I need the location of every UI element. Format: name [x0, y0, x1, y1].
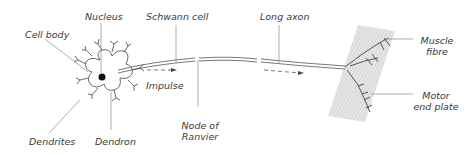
diagram-drawing [0, 0, 469, 155]
impulse-arrow [147, 70, 300, 73]
label-muscle-fibre-line1: Muscle [412, 35, 462, 46]
motor-neurone-diagram: Nucleus Cell body Dendrites Dendron Schw… [0, 0, 469, 155]
label-nucleus: Nucleus [85, 11, 123, 22]
label-node-of-ranvier-line1: Node of [180, 120, 220, 131]
label-muscle-fibre-line2: fibre [412, 46, 462, 57]
label-muscle-fibre: Muscle fibre [412, 35, 462, 57]
axon-shape [118, 57, 345, 73]
label-dendron: Dendron [95, 136, 136, 147]
label-dendrites: Dendrites [29, 136, 75, 147]
label-cell-body: Cell body [25, 29, 69, 40]
label-motor-end-plate: Motor end plate [408, 90, 464, 112]
label-impulse: Impulse [146, 80, 184, 91]
label-motor-end-plate-line1: Motor [408, 90, 464, 101]
label-long-axon: Long axon [260, 11, 309, 22]
label-node-of-ranvier-line2: Ranvier [180, 131, 220, 142]
nucleus-shape [99, 74, 106, 81]
label-node-of-ranvier: Node of Ranvier [180, 120, 220, 142]
cell-body-shape [74, 39, 144, 101]
label-motor-end-plate-line2: end plate [408, 101, 464, 112]
label-schwann-cell: Schwann cell [146, 11, 208, 22]
